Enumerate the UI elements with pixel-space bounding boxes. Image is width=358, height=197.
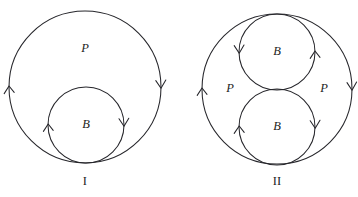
panel-two: B B P P II	[197, 14, 356, 188]
panel-two-caption: II	[273, 174, 282, 188]
panel-two-label-b-bottom: B	[273, 119, 281, 133]
panel-two-label-p-right: P	[319, 81, 328, 95]
panel-one-label-b: B	[82, 117, 90, 131]
circle-diagram-figure: P B I B	[0, 0, 358, 197]
panel-two-label-b-top: B	[273, 44, 281, 58]
panel-one: P B I	[4, 11, 166, 188]
figure-root: P B I B	[0, 0, 358, 197]
panel-one-caption: I	[83, 174, 87, 188]
panel-two-label-p-left: P	[225, 81, 234, 95]
panel-one-label-p: P	[80, 41, 89, 55]
